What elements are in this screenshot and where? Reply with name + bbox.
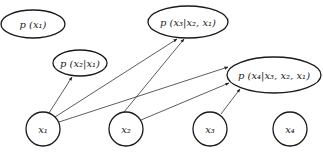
factor-node-label: p (x₄|x₃, x₂, x₁): [238, 70, 310, 82]
diagram-canvas: p (x₁) p (x₂|x₁) p (x₃|x₂, x₁) p (x₄|x₃,…: [0, 0, 323, 156]
factor-node-p-x3-given-x2-x1: p (x₃|x₂, x₁): [148, 6, 228, 38]
factor-node-p-x1: p (x₁): [1, 10, 65, 38]
variable-node-label: x₃: [205, 124, 215, 135]
variable-nodes: x₁ x₂ x₃ x₄: [26, 112, 307, 146]
factor-node-label: p (x₁): [19, 19, 46, 30]
variable-node-x4: x₄: [273, 112, 307, 146]
factor-node-p-x2-given-x1: p (x₂|x₁): [53, 50, 107, 76]
factor-node-p-x4-given-x3-x2-x1: p (x₄|x₃, x₂, x₁): [227, 57, 321, 93]
variable-node-label: x₁: [38, 124, 48, 135]
factor-node-label: p (x₂|x₁): [60, 58, 100, 70]
edge-x1-to-p-x2-given-x1: [49, 77, 72, 113]
variable-node-x3: x₃: [193, 112, 227, 146]
variable-node-x2: x₂: [109, 112, 143, 146]
variable-node-x1: x₁: [26, 112, 60, 146]
variable-node-label: x₄: [285, 124, 295, 135]
edge-x2-to-p-x3-given-x2-x1: [124, 39, 184, 112]
factor-node-label: p (x₃|x₂, x₁): [160, 17, 216, 29]
variable-node-label: x₂: [121, 124, 131, 135]
edge-x3-to-p-x4-given-x3-x2-x1: [221, 89, 240, 114]
